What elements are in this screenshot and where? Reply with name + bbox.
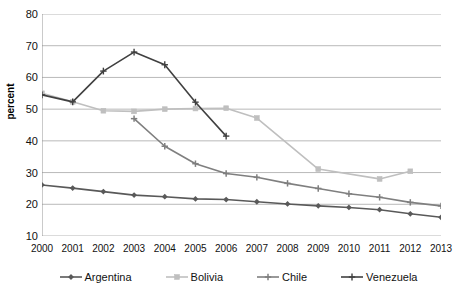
marker bbox=[193, 106, 198, 111]
marker bbox=[408, 169, 413, 174]
y-tick-label-30: 30 bbox=[14, 168, 38, 178]
marker bbox=[285, 201, 291, 207]
marker bbox=[377, 207, 383, 213]
marker bbox=[193, 196, 199, 202]
x-tick-label-2010: 2010 bbox=[334, 243, 364, 254]
marker bbox=[70, 185, 76, 191]
legend-label: Argentina bbox=[85, 271, 132, 283]
marker bbox=[174, 275, 179, 280]
x-tick-label-2005: 2005 bbox=[180, 243, 210, 254]
x-tick-label-2013: 2013 bbox=[426, 243, 456, 254]
legend-label: Bolivia bbox=[191, 271, 223, 283]
marker bbox=[315, 203, 321, 209]
series-line bbox=[134, 119, 441, 206]
series-argentina bbox=[42, 182, 441, 220]
legend-marker-icon bbox=[59, 271, 83, 283]
y-tick-label-50: 50 bbox=[14, 104, 38, 114]
y-tick-label-80: 80 bbox=[14, 9, 38, 19]
plot-area bbox=[42, 14, 441, 236]
legend-marker-icon bbox=[256, 271, 280, 283]
series-line bbox=[42, 52, 226, 136]
marker bbox=[224, 106, 229, 111]
marker bbox=[162, 194, 168, 200]
x-tick-label-2012: 2012 bbox=[395, 243, 425, 254]
x-tick-label-2007: 2007 bbox=[242, 243, 272, 254]
y-axis-title: percent bbox=[5, 57, 16, 147]
marker bbox=[132, 109, 137, 114]
marker bbox=[254, 199, 260, 205]
legend-marker-icon bbox=[165, 271, 189, 283]
legend-item-chile[interactable]: Chile bbox=[256, 271, 307, 283]
x-tick-label-2004: 2004 bbox=[150, 243, 180, 254]
x-tick-label-2009: 2009 bbox=[303, 243, 333, 254]
series-chile bbox=[131, 115, 441, 209]
marker bbox=[162, 107, 167, 112]
marker bbox=[68, 274, 74, 280]
marker bbox=[42, 182, 45, 188]
marker bbox=[377, 177, 382, 182]
x-tick-label-2002: 2002 bbox=[88, 243, 118, 254]
marker bbox=[407, 211, 413, 217]
x-tick-label-2001: 2001 bbox=[58, 243, 88, 254]
x-tick-label-2000: 2000 bbox=[27, 243, 57, 254]
marker bbox=[223, 197, 229, 203]
series-venezuela bbox=[42, 49, 229, 140]
x-tick-label-2008: 2008 bbox=[273, 243, 303, 254]
marker bbox=[131, 192, 137, 198]
y-tick-label-60: 60 bbox=[14, 72, 38, 82]
y-tick-label-10: 10 bbox=[14, 231, 38, 241]
marker bbox=[346, 205, 352, 211]
legend-item-bolivia[interactable]: Bolivia bbox=[165, 271, 223, 283]
plot-svg bbox=[42, 14, 441, 236]
chart-legend: ArgentinaBoliviaChileVenezuela bbox=[42, 266, 434, 288]
legend-label: Venezuela bbox=[366, 271, 417, 283]
marker bbox=[254, 116, 259, 121]
legend-marker-icon bbox=[340, 271, 364, 283]
x-tick-label-2011: 2011 bbox=[365, 243, 395, 254]
y-tick-label-70: 70 bbox=[14, 41, 38, 51]
marker bbox=[438, 214, 441, 220]
x-tick-label-2006: 2006 bbox=[211, 243, 241, 254]
x-tick-label-2003: 2003 bbox=[119, 243, 149, 254]
legend-item-argentina[interactable]: Argentina bbox=[59, 271, 132, 283]
marker bbox=[316, 167, 321, 172]
marker bbox=[100, 189, 106, 195]
marker bbox=[101, 108, 106, 113]
legend-item-venezuela[interactable]: Venezuela bbox=[340, 271, 417, 283]
series-line bbox=[42, 185, 441, 217]
y-tick-label-20: 20 bbox=[14, 199, 38, 209]
y-tick-label-40: 40 bbox=[14, 136, 38, 146]
legend-label: Chile bbox=[282, 271, 307, 283]
